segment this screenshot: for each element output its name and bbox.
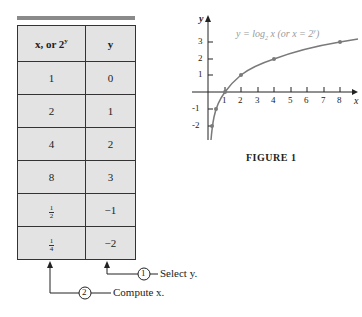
log-curve — [211, 39, 358, 140]
step-1-number: 1 — [141, 268, 147, 278]
arrow-head-icon — [47, 261, 53, 268]
figure-caption: FIGURE 1 — [246, 152, 296, 163]
x-tick-label: 6 — [304, 95, 309, 105]
y-tick-label: -2 — [192, 120, 200, 130]
arrow-compute-x — [50, 265, 79, 293]
x-tick-label: 7 — [321, 95, 326, 105]
x-tick-label: 5 — [288, 95, 293, 105]
x-tick-label: 4 — [271, 95, 276, 105]
y-tick-label: -1 — [192, 103, 200, 113]
x-tick-label: 8 — [337, 95, 342, 105]
x-tick-label: 1 — [222, 95, 227, 105]
x-axis-label: x — [354, 95, 358, 106]
x-tick-label: 2 — [238, 95, 243, 105]
arrow-head-icon — [104, 261, 110, 268]
step-2-number: 2 — [82, 287, 88, 297]
y-tick-label: 3 — [198, 36, 203, 46]
x-tick-label: 3 — [255, 95, 260, 105]
curve-equation: y = log2 x (or x = 2y) — [236, 28, 319, 41]
y-tick-label: 2 — [198, 53, 203, 63]
y-axis-label: y — [199, 13, 203, 24]
arrow-select-y — [107, 265, 138, 274]
step-2-label: Compute x. — [113, 286, 164, 298]
data-points — [210, 40, 342, 128]
step-1-label: Select y. — [160, 267, 197, 279]
y-tick-label: 1 — [198, 69, 203, 79]
